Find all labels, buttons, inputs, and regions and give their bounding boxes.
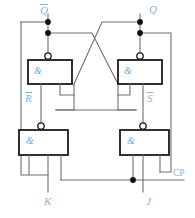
circuit-wiring-canvas xyxy=(0,0,195,218)
junction-dot-qnot-upper xyxy=(45,19,51,25)
junction-dot-qnot-lower xyxy=(45,30,51,36)
logic-circuit-diagram: & & & & Q Q R S K J CP xyxy=(0,0,195,218)
bubble-lower-right-icon xyxy=(140,123,146,129)
bubble-upper-right-icon xyxy=(137,53,143,59)
upper-right-nand-symbol: & xyxy=(124,66,132,76)
wire-upper-right-gate-left-leg xyxy=(118,84,130,95)
lower-right-nand-symbol: & xyxy=(127,136,135,146)
q-not-label: Q xyxy=(40,4,48,17)
upper-left-nand-symbol: & xyxy=(34,66,42,76)
junction-dot-q-lower xyxy=(137,30,143,36)
r-not-label-text: R xyxy=(25,92,32,105)
q-label: Q xyxy=(149,4,157,15)
junction-dot-q-upper xyxy=(137,19,143,25)
r-not-label: R xyxy=(25,92,32,105)
lower-left-nand-symbol: & xyxy=(26,136,34,146)
bubble-upper-left-icon xyxy=(45,53,51,59)
q-label-text: Q xyxy=(149,3,157,15)
j-label-text: J xyxy=(146,195,151,207)
s-not-label-text: S xyxy=(147,92,153,105)
wire-cross-return-left xyxy=(56,84,74,110)
wire-cross-return-right xyxy=(118,84,136,110)
bubble-lower-left-icon xyxy=(38,123,44,129)
j-label: J xyxy=(146,196,151,207)
q-not-label-text: Q xyxy=(40,4,48,17)
k-label: K xyxy=(44,196,51,207)
cp-label-text: CP xyxy=(173,168,185,178)
s-not-label: S xyxy=(147,92,153,105)
wire-upper-left-gate-right-leg xyxy=(60,84,74,95)
k-label-text: K xyxy=(44,195,51,207)
cp-label: CP xyxy=(173,169,185,179)
junction-dot-cp-line xyxy=(130,177,136,183)
